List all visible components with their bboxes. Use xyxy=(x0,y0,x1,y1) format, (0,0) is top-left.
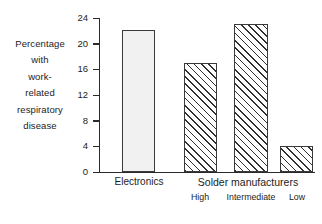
x-label-electronics: Electronics xyxy=(104,176,174,188)
bar-electronics[interactable] xyxy=(122,30,155,171)
x-group-label-solder: Solder manufacturers xyxy=(178,176,318,188)
y-tick-label-0: 0 xyxy=(68,167,88,177)
x-sublabel-high: High xyxy=(180,192,220,202)
y-axis-line xyxy=(99,18,100,172)
bar-chart-figure: Percentage with work- related respirator… xyxy=(0,0,322,224)
bar-solder-intermediate[interactable] xyxy=(234,24,268,172)
bar-solder-low[interactable] xyxy=(280,146,313,172)
y-tick-mark-4 xyxy=(93,146,99,147)
y-tick-label-20: 20 xyxy=(68,39,88,49)
y-tick-mark-0 xyxy=(93,172,99,173)
bar-solder-high[interactable] xyxy=(184,63,217,172)
x-sublabel-low: Low xyxy=(282,192,312,202)
y-tick-label-8: 8 xyxy=(68,116,88,126)
y-tick-mark-16 xyxy=(93,69,99,70)
plot-area: 24 20 16 12 8 4 0 Electronics Solder man… xyxy=(0,0,322,224)
y-tick-mark-20 xyxy=(93,43,99,44)
y-tick-mark-12 xyxy=(93,95,99,96)
x-sublabel-intermediate: Intermediate xyxy=(222,192,280,202)
y-tick-mark-8 xyxy=(93,120,99,121)
y-tick-label-4: 4 xyxy=(68,141,88,151)
y-tick-mark-24 xyxy=(93,18,99,19)
y-tick-label-16: 16 xyxy=(68,64,88,74)
y-tick-label-24: 24 xyxy=(68,13,88,23)
y-tick-label-12: 12 xyxy=(68,90,88,100)
x-axis-line xyxy=(99,172,315,173)
